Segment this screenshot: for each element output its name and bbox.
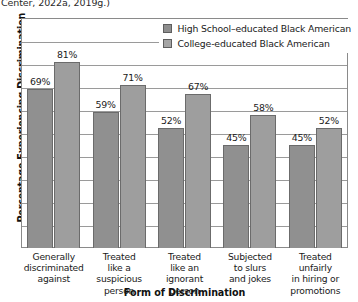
bar-value-label: 58% — [253, 102, 273, 113]
label-line: like a — [87, 262, 150, 273]
bar-value-label: 69% — [30, 76, 50, 87]
label-line: ignorant — [153, 273, 216, 284]
legend-swatch-icon — [163, 39, 172, 48]
label-line: Subjected — [218, 251, 281, 262]
bar-high-school[interactable] — [223, 145, 249, 249]
chart-legend: High School–educated Black American Coll… — [159, 19, 357, 53]
bar-value-label: 71% — [122, 72, 142, 83]
label-line: to slurs — [218, 262, 281, 273]
bar-wrap: 71% — [120, 18, 146, 248]
bar-value-label: 45% — [226, 132, 246, 143]
bar-college[interactable] — [54, 62, 80, 248]
label-line: in hiring or — [284, 273, 347, 284]
bar-chart-figure: Percentage Experiencing Discrimination H… — [0, 12, 358, 302]
legend-item-high-school: High School–educated Black American — [163, 21, 351, 36]
bar-wrap: 69% — [27, 18, 53, 248]
label-line: Treated unfairly — [284, 251, 347, 273]
bar-college[interactable] — [250, 115, 276, 248]
bar-value-label: 81% — [57, 49, 77, 60]
bar-value-label: 45% — [292, 132, 312, 143]
bar-group: 69% 81% — [21, 18, 86, 248]
bar-value-label: 67% — [188, 81, 208, 92]
label-line: discriminated — [22, 262, 85, 273]
bar-high-school[interactable] — [93, 112, 119, 248]
bar-value-label: 59% — [95, 99, 115, 110]
bar-value-label: 52% — [319, 115, 339, 126]
bar-group: 59% 71% — [86, 18, 151, 248]
legend-item-college: College-educated Black American — [163, 36, 351, 51]
bar-value-label: 52% — [161, 115, 181, 126]
x-axis-title: Form of Discrimination — [21, 287, 348, 298]
label-line: like an — [153, 262, 216, 273]
bar-college[interactable] — [120, 85, 146, 248]
legend-swatch-icon — [163, 24, 172, 33]
citation-text: Center, 2022a, 2019g.) — [1, 0, 110, 8]
bar-high-school[interactable] — [27, 89, 53, 248]
label-line: suspicious — [87, 273, 150, 284]
bar-wrap: 81% — [54, 18, 80, 248]
label-line: Treated — [87, 251, 150, 262]
bar-high-school[interactable] — [289, 145, 315, 249]
bar-high-school[interactable] — [158, 128, 184, 248]
label-line: Generally — [22, 251, 85, 262]
label-line: Treated — [153, 251, 216, 262]
label-line: against — [22, 273, 85, 284]
legend-label: High School–educated Black American — [178, 23, 351, 34]
legend-label: College-educated Black American — [178, 38, 330, 49]
bar-college[interactable] — [316, 128, 342, 248]
label-line: and jokes — [218, 273, 281, 284]
bar-college[interactable] — [185, 94, 211, 248]
bar-wrap: 59% — [93, 18, 119, 248]
